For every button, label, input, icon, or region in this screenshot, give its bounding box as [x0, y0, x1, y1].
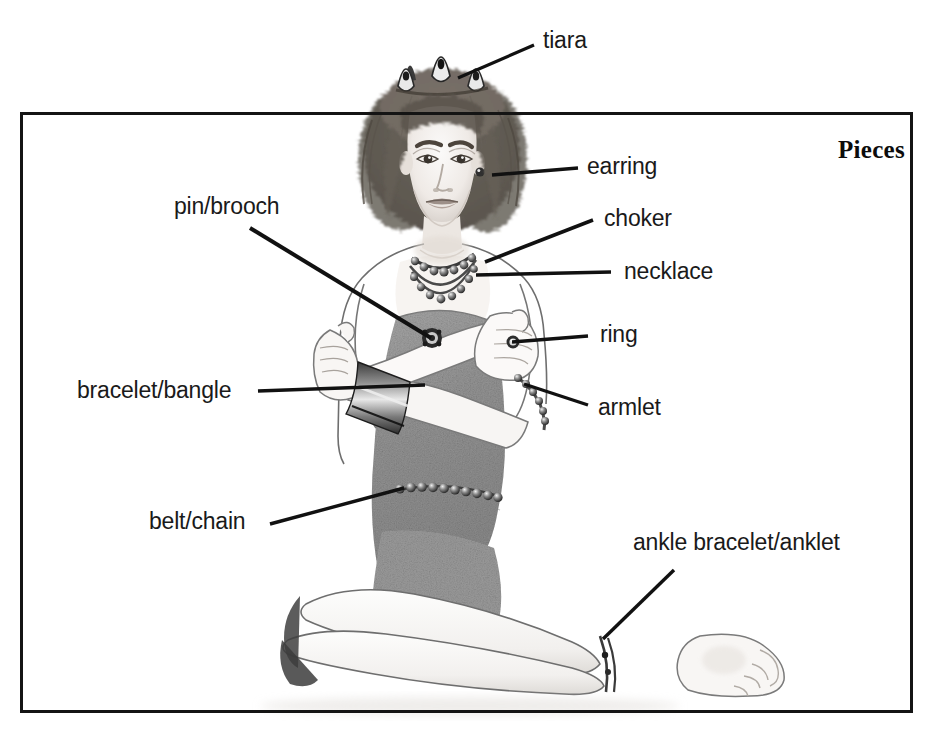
- label-ankle-anklet: ankle bracelet/anklet: [633, 531, 840, 554]
- tiara-line: [458, 45, 534, 78]
- figure-illustration: [260, 57, 784, 715]
- label-choker: choker: [604, 207, 672, 230]
- foot: [677, 634, 784, 696]
- label-earring: earring: [587, 155, 657, 178]
- label-belt-chain: belt/chain: [149, 510, 245, 533]
- label-necklace: necklace: [624, 260, 713, 283]
- necklace-line: [476, 272, 611, 275]
- ankle-anklet-line: [603, 570, 674, 639]
- jewelry-pieces-diagram: Pieces tiaraearringpin/broochchokerneckl…: [0, 0, 927, 729]
- label-pin-brooch: pin/brooch: [174, 195, 279, 218]
- label-ring: ring: [600, 323, 638, 346]
- label-armlet: armlet: [598, 396, 661, 419]
- label-bracelet-bangle: bracelet/bangle: [77, 379, 231, 402]
- page-title: Pieces: [838, 136, 905, 164]
- legs-group: [280, 590, 784, 697]
- illustration-canvas: [0, 0, 927, 729]
- earring-jewelry: [475, 167, 484, 176]
- label-tiara: tiara: [543, 29, 587, 52]
- pin-brooch-jewelry: [422, 328, 442, 348]
